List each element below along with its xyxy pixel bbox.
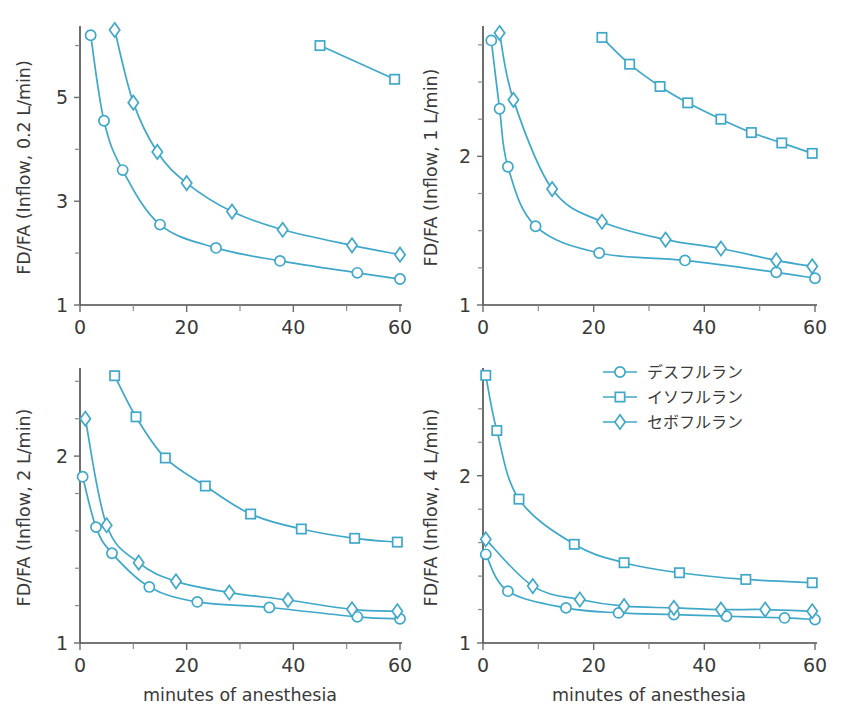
- data-point-square: [741, 575, 750, 584]
- legend-label: セボフルラン: [647, 413, 743, 432]
- data-point-diamond: [660, 232, 670, 246]
- panel-top-right-svg: 120204060FD/FA (Inflow, 1 L/min): [415, 0, 845, 358]
- data-point-diamond: [102, 518, 112, 532]
- data-point-circle: [495, 104, 505, 114]
- data-point-square: [201, 481, 210, 490]
- data-point-circle: [486, 35, 496, 45]
- data-point-circle: [779, 613, 789, 623]
- data-point-circle: [118, 165, 128, 175]
- data-point-square: [246, 509, 255, 518]
- y-tick-label: 5: [56, 86, 68, 108]
- x-tick-label: 40: [692, 316, 716, 338]
- data-point-circle: [264, 602, 274, 612]
- y-tick-label: 1: [459, 294, 471, 316]
- data-point-circle: [275, 256, 285, 266]
- series-square: [315, 41, 399, 84]
- legend-marker-circle: [615, 367, 625, 377]
- series-line: [320, 46, 395, 80]
- data-point-circle: [810, 273, 820, 283]
- data-point-diamond: [224, 585, 234, 599]
- data-point-circle: [192, 597, 202, 607]
- data-point-square: [131, 412, 140, 421]
- data-point-square: [675, 568, 684, 577]
- data-point-square: [110, 371, 119, 380]
- x-tick-label: 20: [582, 654, 606, 676]
- series-line: [486, 539, 812, 611]
- data-point-diamond: [283, 593, 293, 607]
- data-point-square: [683, 98, 692, 107]
- y-tick-label: 2: [459, 145, 471, 167]
- data-point-square: [777, 138, 786, 147]
- data-point-circle: [107, 548, 117, 558]
- x-tick-label: 20: [175, 316, 199, 338]
- series-line: [500, 33, 813, 266]
- data-point-square: [481, 371, 490, 380]
- data-point-circle: [561, 603, 571, 613]
- data-point-circle: [503, 162, 513, 172]
- x-tick-label: 40: [692, 654, 716, 676]
- data-point-circle: [211, 243, 221, 253]
- data-point-circle: [594, 248, 604, 258]
- y-axis-title: FD/FA (Inflow, 2 L/min): [14, 409, 34, 607]
- figure-root: 1350204060FD/FA (Inflow, 0.2 L/min) 1202…: [0, 0, 845, 715]
- x-tick-label: 40: [281, 316, 305, 338]
- legend-marker-square: [615, 392, 624, 401]
- series-diamond: [481, 532, 818, 618]
- data-point-diamond: [395, 248, 405, 262]
- data-point-diamond: [227, 204, 237, 218]
- data-point-square: [619, 558, 628, 567]
- series-diamond: [494, 26, 817, 274]
- legend-label: デスフルラン: [647, 363, 743, 382]
- data-point-square: [570, 540, 579, 549]
- series-line: [83, 477, 400, 619]
- chart-panel-top-right: 120204060FD/FA (Inflow, 1 L/min): [415, 0, 845, 358]
- data-point-circle: [78, 472, 88, 482]
- data-point-circle: [530, 221, 540, 231]
- chart-panel-top-left: 1350204060FD/FA (Inflow, 0.2 L/min): [0, 0, 422, 358]
- data-point-diamond: [716, 241, 726, 255]
- data-point-square: [492, 426, 501, 435]
- x-tick-label: 60: [388, 316, 412, 338]
- data-point-square: [655, 82, 664, 91]
- series-line: [491, 40, 815, 278]
- chart-panel-bottom-left: 120204060FD/FA (Inflow, 2 L/min)minutes …: [0, 350, 422, 715]
- data-point-diamond: [807, 259, 817, 273]
- series-line: [602, 37, 812, 153]
- series-diamond: [110, 23, 406, 262]
- data-point-circle: [395, 274, 405, 284]
- x-tick-label: 0: [74, 654, 86, 676]
- data-point-circle: [503, 586, 513, 596]
- x-tick-label: 20: [582, 316, 606, 338]
- data-point-diamond: [771, 253, 781, 267]
- panel-bottom-right-svg: 120204060FD/FA (Inflow, 4 L/min)minutes …: [415, 350, 845, 715]
- data-point-diamond: [575, 592, 585, 606]
- series-circle: [78, 472, 406, 624]
- data-point-square: [597, 33, 606, 42]
- series-line: [85, 419, 397, 612]
- y-tick-label: 2: [56, 445, 68, 467]
- data-point-circle: [680, 255, 690, 265]
- data-point-diamond: [278, 223, 288, 237]
- data-point-square: [393, 537, 402, 546]
- y-tick-label: 1: [459, 632, 471, 654]
- legend-label: イソフルラン: [647, 388, 743, 407]
- data-point-diamond: [134, 556, 144, 570]
- data-point-square: [808, 149, 817, 158]
- x-axis-title: minutes of anesthesia: [143, 685, 337, 705]
- series-diamond: [80, 412, 402, 619]
- data-point-circle: [91, 522, 101, 532]
- data-point-diamond: [128, 96, 138, 110]
- x-tick-label: 0: [74, 316, 86, 338]
- data-point-diamond: [171, 574, 181, 588]
- x-tick-label: 20: [175, 654, 199, 676]
- data-point-circle: [155, 219, 165, 229]
- data-point-diamond: [597, 215, 607, 229]
- data-point-square: [297, 524, 306, 533]
- data-point-diamond: [528, 579, 538, 593]
- data-point-diamond: [508, 93, 518, 107]
- y-tick-label: 1: [56, 294, 68, 316]
- data-point-square: [161, 453, 170, 462]
- series-square: [110, 371, 402, 547]
- panel-bottom-left-svg: 120204060FD/FA (Inflow, 2 L/min)minutes …: [0, 350, 422, 715]
- data-point-circle: [86, 30, 96, 40]
